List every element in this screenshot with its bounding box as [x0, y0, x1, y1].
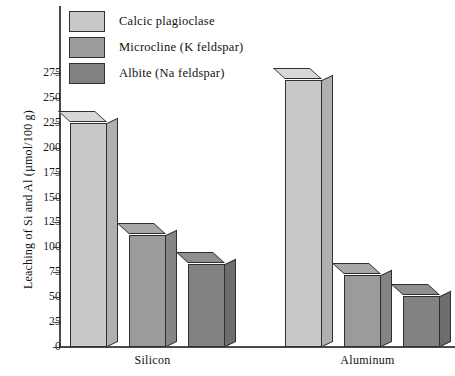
bar-aluminum-calcic [285, 80, 322, 347]
bar-front-face [188, 264, 225, 347]
y-tick-label: 125 [15, 216, 61, 228]
legend-label: Albite (Na feldspar) [119, 66, 225, 81]
y-tick-label: 0 [15, 341, 61, 353]
x-axis-label-aluminum: Aluminum [308, 353, 428, 368]
bar-front-face [285, 80, 322, 347]
bar-top-face [176, 252, 225, 263]
bar-front-face [129, 235, 166, 347]
bar-silicon-calcic [70, 123, 107, 347]
bar-side-face [166, 230, 177, 347]
bar-side-face [322, 75, 333, 347]
bar-side-face [225, 259, 236, 347]
legend-swatch [69, 63, 105, 84]
bar-front-face [403, 296, 440, 347]
y-tick-label: 100 [15, 241, 61, 253]
y-tick-label: 225 [15, 117, 61, 129]
bar-top-face [58, 111, 107, 122]
bar-aluminum-microcline [344, 275, 381, 347]
bar-top-face [117, 223, 166, 234]
y-tick-label: 150 [15, 192, 61, 204]
legend-label: Calcic plagioclase [119, 14, 215, 29]
legend-label: Microcline (K feldspar) [119, 40, 243, 55]
bar-side-face [381, 270, 392, 347]
y-tick-label: 200 [15, 142, 61, 154]
bar-side-face [440, 291, 451, 347]
y-tick-label: 250 [15, 92, 61, 104]
legend-swatch [69, 11, 105, 32]
bar-silicon-albite [188, 264, 225, 347]
bar-top-face [273, 68, 322, 79]
legend-item: Microcline (K feldspar) [69, 37, 243, 58]
y-tick-label: 50 [15, 291, 61, 303]
y-tick-label: 175 [15, 167, 61, 179]
legend-item: Calcic plagioclase [69, 11, 215, 32]
y-tick-label: 25 [15, 316, 61, 328]
bar-side-face [107, 117, 118, 347]
bar-top-face [391, 284, 440, 295]
bar-aluminum-albite [403, 296, 440, 347]
legend-swatch [69, 37, 105, 58]
chart-canvas: Leaching of Si and Al (µmol/100 g) 27525… [0, 0, 455, 376]
y-tick-label: 275 [15, 67, 61, 79]
x-axis-label-silicon: Silicon [93, 353, 213, 368]
y-tick-label: 75 [15, 266, 61, 278]
bar-front-face [344, 275, 381, 347]
bar-front-face [70, 123, 107, 347]
bar-top-face [332, 263, 381, 274]
bar-silicon-microcline [129, 235, 166, 347]
legend-item: Albite (Na feldspar) [69, 63, 225, 84]
